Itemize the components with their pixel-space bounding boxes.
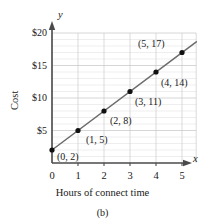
figure-caption: (b) — [0, 208, 205, 218]
x-axis-symbol: x — [193, 154, 198, 165]
x-axis-title: Hours of connect time — [0, 188, 205, 199]
data-point-label: (0, 2) — [57, 152, 79, 162]
axis-lines — [49, 21, 192, 166]
y-tick-label: $5 — [14, 126, 47, 136]
data-line — [52, 42, 196, 150]
data-point-label: (5, 17) — [138, 39, 165, 49]
x-tick-label: 5 — [172, 171, 192, 182]
x-tick-label: 1 — [68, 171, 88, 182]
x-tick-label: 4 — [146, 171, 166, 182]
data-point-label: (3, 11) — [135, 97, 161, 107]
y-tick-label: $15 — [14, 61, 47, 71]
x-tick-label: 2 — [94, 171, 114, 182]
data-point-label: (1, 5) — [86, 135, 108, 145]
y-axis-symbol: y — [58, 10, 63, 21]
data-point-label: (2, 8) — [110, 116, 132, 126]
y-axis-title: Cost — [10, 80, 21, 120]
data-point-label: (4, 14) — [161, 78, 188, 88]
x-tick-label: 3 — [120, 171, 140, 182]
grid-horizontal-lines — [52, 33, 196, 157]
figure-panel-b: $5$10$15$20 012345 (0, 2)(1, 5)(2, 8)(3,… — [0, 0, 205, 223]
y-tick-label: $20 — [14, 28, 47, 38]
x-tick-label: 0 — [42, 171, 62, 182]
